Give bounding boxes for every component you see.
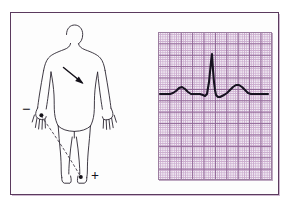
positive-electrode-dot <box>79 175 83 179</box>
positive-electrode-label: + <box>91 169 99 183</box>
ecg-graph-paper <box>158 32 272 180</box>
negative-electrode-label: − <box>22 102 31 117</box>
negative-electrode-dot <box>39 113 43 117</box>
heart-depolarization-arrow <box>64 68 84 85</box>
ecg-waveform-trace <box>158 32 272 180</box>
body-diagram-panel: − + <box>10 12 145 195</box>
